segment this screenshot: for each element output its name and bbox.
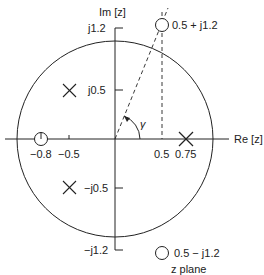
zero-label: 0.5 + j1.2 — [172, 19, 218, 31]
re-tick-label: 0.5 — [154, 148, 169, 160]
im-tick-label: −j1.2 — [84, 244, 108, 256]
zero-label: 0.5 − j1.2 — [174, 247, 220, 259]
caption: z plane — [171, 263, 206, 275]
pole-marker — [63, 181, 76, 194]
zero-marker — [156, 19, 169, 32]
re-tick-label: −0.8 — [30, 148, 52, 160]
im-tick-label: j1.2 — [87, 22, 106, 34]
im-tick-label: j0.5 — [87, 84, 106, 96]
im-tick-label: −j0.5 — [84, 182, 108, 194]
zero-marker — [156, 247, 169, 260]
im-axis-label: Im [z] — [99, 6, 126, 18]
re-tick-label: −0.5 — [58, 148, 80, 160]
re-tick-label: 0.75 — [175, 148, 196, 160]
re-axis-label: Re [z] — [234, 133, 263, 145]
pole-marker — [63, 84, 76, 97]
z-plane-diagram: Im [z] Re [z] j1.2 j0.5 −j0.5 −j1.2 −0.8… — [0, 0, 264, 275]
angle-label: γ — [140, 118, 147, 130]
